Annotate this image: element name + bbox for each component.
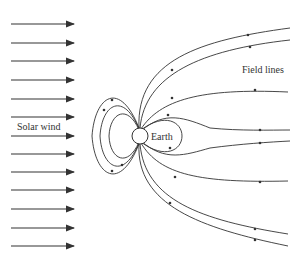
magnetosphere-diagram: Solar wind Earth Field lines [0,0,297,259]
earth-label: Earth [151,131,173,142]
tail-line-south-3 [141,143,288,181]
field-lines-label: Field lines [242,64,284,75]
tail-line-south-2 [140,144,288,234]
tail-line-north-3 [141,91,288,129]
earth-circle [132,128,148,144]
solar-wind-arrows [11,24,74,246]
tail-line-south-1 [139,144,288,246]
magnetic-field-lines [92,28,290,246]
solar-wind-label: Solar wind [17,121,61,132]
tail-line-north-2 [140,40,290,128]
tail-line-south-4 [141,141,290,155]
tail-line-north-4 [141,118,290,131]
